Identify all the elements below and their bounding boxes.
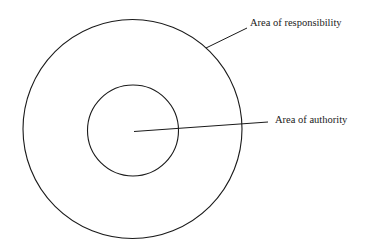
responsibility-leader-line	[206, 28, 247, 48]
concentric-circles-diagram: Area of responsibility Area of authority	[0, 0, 390, 247]
outer-circle-responsibility	[23, 20, 242, 239]
label-area-of-authority: Area of authority	[275, 114, 348, 125]
label-area-of-responsibility: Area of responsibility	[250, 17, 342, 28]
inner-circle-authority	[88, 85, 179, 176]
authority-leader-line	[134, 122, 268, 132]
